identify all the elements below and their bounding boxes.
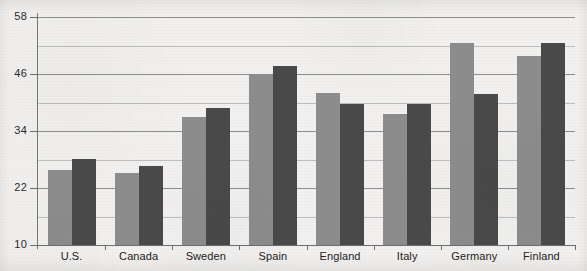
- bar-chart: 1022344658 U.S.CanadaSwedenSpainEnglandI…: [0, 0, 587, 271]
- y-axis-tick-label: 34: [0, 125, 27, 136]
- x-axis-category-label: England: [307, 250, 374, 263]
- y-axis-tick: [30, 17, 38, 18]
- y-axis-tick: [30, 131, 38, 132]
- bar: [139, 166, 163, 245]
- x-axis-tick: [105, 245, 106, 250]
- bar: [206, 108, 230, 245]
- bar: [517, 56, 541, 245]
- x-axis-category-label: Finland: [508, 250, 575, 263]
- y-axis-tick-label: 58: [0, 11, 27, 22]
- x-axis-line: [30, 245, 575, 246]
- bar: [115, 173, 139, 245]
- bar: [407, 104, 431, 245]
- x-axis-category-label: Canada: [105, 250, 172, 263]
- y-axis-tick: [30, 188, 38, 189]
- bar: [450, 43, 474, 245]
- x-axis-category-label: Germany: [441, 250, 508, 263]
- bar: [249, 74, 273, 245]
- bar: [474, 94, 498, 245]
- bar: [182, 117, 206, 245]
- x-axis-tick: [239, 245, 240, 250]
- y-axis-tick-label: 46: [0, 68, 27, 79]
- x-axis-tick: [575, 245, 576, 250]
- x-axis-tick: [374, 245, 375, 250]
- bar: [383, 114, 407, 245]
- bar: [48, 170, 72, 245]
- y-axis-tick-label: 22: [0, 182, 27, 193]
- bar: [72, 159, 96, 245]
- y-axis-tick: [30, 74, 38, 75]
- x-axis-category-label: U.S.: [38, 250, 105, 263]
- x-axis-category-label: Spain: [239, 250, 306, 263]
- x-axis-tick: [508, 245, 509, 250]
- x-axis-category-label: Italy: [374, 250, 441, 263]
- x-axis-tick: [307, 245, 308, 250]
- bars-layer: [38, 0, 575, 245]
- x-axis-tick: [441, 245, 442, 250]
- bar: [273, 66, 297, 245]
- y-axis-tick-label: 10: [0, 239, 27, 250]
- bar: [340, 104, 364, 245]
- bar: [316, 93, 340, 245]
- x-axis-category-label: Sweden: [172, 250, 239, 263]
- bar: [541, 43, 565, 245]
- x-axis-tick: [172, 245, 173, 250]
- y-axis-tick: [30, 245, 38, 246]
